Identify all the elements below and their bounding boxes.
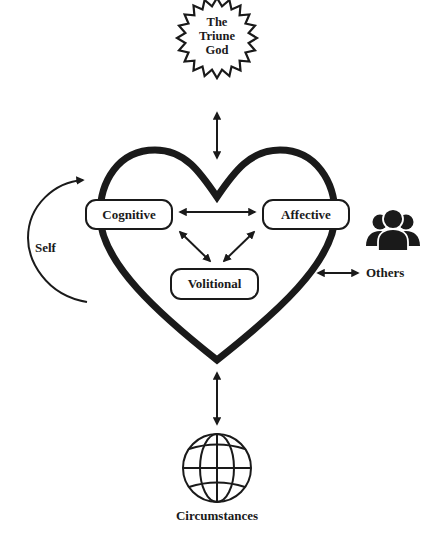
cognitive-node: Cognitive — [85, 199, 173, 230]
triune-god-label: The Triune God — [187, 15, 247, 57]
volitional-node: Volitional — [170, 268, 259, 300]
god-label-line-1: The — [187, 15, 247, 29]
circumstances-label: Circumstances — [165, 508, 269, 524]
god-label-line-2: Triune — [187, 29, 247, 43]
cognitive-volitional-arrow — [180, 232, 210, 261]
self-label: Self — [35, 240, 56, 256]
heart-shape — [100, 150, 335, 360]
god-label-line-3: God — [187, 43, 247, 57]
globe-icon — [183, 434, 251, 502]
affective-node: Affective — [262, 199, 350, 230]
people-group-icon — [366, 209, 420, 251]
affective-volitional-arrow — [224, 232, 254, 261]
others-label: Others — [366, 265, 404, 281]
